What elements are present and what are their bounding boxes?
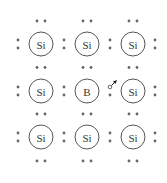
silicon-atom: Si [29,79,53,103]
electron-dot [44,20,47,23]
electron-dot [63,39,66,42]
electron-dot [63,94,66,97]
electron-dot [36,160,39,163]
electron-dot [128,160,131,163]
electron-dot [109,47,112,50]
electron-dot [63,132,66,135]
electron-dot [128,20,131,23]
silicon-atom: Si [75,32,99,56]
atom-label: Si [82,39,91,51]
electron-dot [82,66,85,69]
electron-dot [82,20,85,23]
electron-dot [154,86,157,89]
silicon-boron-lattice-diagram: SiSiSiSiBSiSiSiSi [0,0,167,183]
atom-label: Si [128,39,137,51]
silicon-atom: Si [29,32,53,56]
electron-dot [109,140,112,143]
electron-dot [17,86,20,89]
electron-dot [44,66,47,69]
electron-dot [44,160,47,163]
electron-dot [90,20,93,23]
atom-label: Si [36,39,45,51]
electron-dot [109,132,112,135]
electron-dot [17,47,20,50]
silicon-atom: Si [121,32,145,56]
electron-dot [109,94,112,97]
electron-dot [17,94,20,97]
silicon-atom: Si [121,79,145,103]
electron-dot [44,113,47,116]
electron-dot [63,47,66,50]
electron-dot [63,86,66,89]
electron-dot [154,47,157,50]
atom-label: Si [36,132,45,144]
silicon-atom: Si [121,125,145,149]
electron-dot [128,66,131,69]
hole-marker [108,85,112,89]
electron-dot [82,160,85,163]
electron-dot [17,140,20,143]
silicon-atom: Si [29,125,53,149]
electron-dot [154,94,157,97]
electron-dot [128,113,131,116]
electron-dot [82,113,85,116]
atom-label: B [83,86,90,98]
electron-dot [136,66,139,69]
electron-dot [90,160,93,163]
electron-dot [17,132,20,135]
silicon-atom: Si [75,125,99,149]
electron-dot [63,140,66,143]
electron-dot [36,113,39,116]
atom-label: Si [128,132,137,144]
electron-dot [17,39,20,42]
electron-dot [109,39,112,42]
atom-label: Si [128,86,137,98]
atom-label: Si [82,132,91,144]
electron-dot [136,113,139,116]
electron-dot [154,140,157,143]
electron-dot [154,132,157,135]
electron-dot [136,20,139,23]
electron-dot [36,66,39,69]
electron-dot [136,160,139,163]
electron-dot [90,66,93,69]
electron-dot [90,113,93,116]
electron-dot [36,20,39,23]
electron-dot [154,39,157,42]
atom-label: Si [36,86,45,98]
boron-atom: B [75,79,99,103]
